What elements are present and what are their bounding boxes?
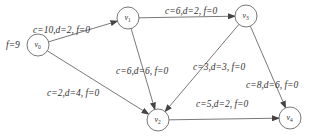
edge-v2-v4	[169, 118, 279, 120]
node-v1: v1	[117, 7, 139, 29]
edge-v3-v4	[250, 26, 285, 108]
node-v2: v2	[147, 109, 169, 131]
node-v0: v0	[27, 34, 49, 56]
source-flow-label: f=9	[6, 40, 20, 50]
edge-label-v2-v4: c=5,d=2, f=0	[196, 99, 248, 109]
edge-label-v3-v2: c=3,d=3, f=0	[193, 62, 245, 72]
edge-label-v1-v2: c=6,d=6, f=0	[116, 66, 168, 76]
edge-label-v0-v1: c=10,d=2, f=0	[33, 25, 90, 35]
node-v3: v3	[235, 5, 257, 27]
edge-label-v1-v3: c=6,d=2, f=0	[165, 6, 217, 16]
edge-v0-v2	[47, 51, 148, 114]
edge-label-v0-v2: c=2,d=4, f=0	[47, 88, 99, 98]
node-v4: v4	[279, 107, 301, 129]
network-flow-diagram: v0v1v2v3v4 c=10,d=2, f=0c=6,d=2, f=0c=6,…	[0, 0, 320, 136]
edge-label-v3-v4: c=8,d=6, f=0	[246, 80, 298, 90]
edge-v1-v3	[139, 16, 235, 18]
